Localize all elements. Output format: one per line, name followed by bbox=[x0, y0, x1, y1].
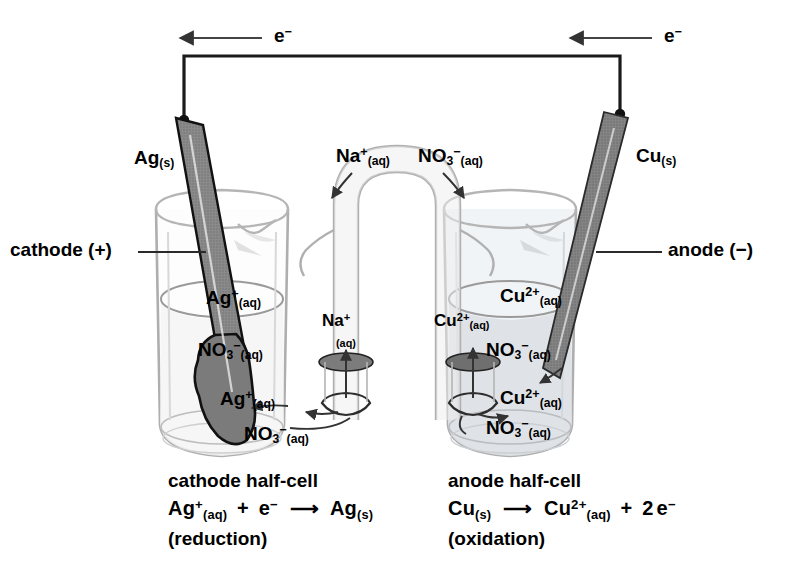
anode-half-reaction: Cu(s) ⟶ Cu2+(aq) + 2e− bbox=[448, 496, 676, 522]
electron-label-right: e− bbox=[664, 26, 682, 46]
left-species-no3-upper: NO3−(aq) bbox=[198, 340, 263, 362]
anode-half-cell-caption: anode half-cell Cu(s) ⟶ Cu2+(aq) + 2e− (… bbox=[448, 470, 676, 550]
left-species-no3-lower: NO3−(aq) bbox=[244, 424, 309, 446]
salt-bridge-no3-label: NO3−(aq) bbox=[418, 146, 483, 168]
cathode-half-reaction: Ag+(aq) + e− ⟶ Ag(s) bbox=[168, 496, 373, 522]
silver-electrode-label: Ag(s) bbox=[134, 148, 174, 170]
salt-bridge-na-label: Na+(aq) bbox=[336, 146, 390, 168]
anode-side-label: anode (−) bbox=[668, 240, 753, 260]
cathode-side-label: cathode (+) bbox=[10, 240, 112, 260]
cathode-caption-heading: cathode half-cell bbox=[168, 470, 373, 492]
cell-diagram-canvas: e− e− Ag(s) Cu(s) cathode (+) anode (−) … bbox=[0, 0, 788, 572]
copper-electrode-label: Cu(s) bbox=[636, 146, 676, 168]
external-circuit-wire bbox=[179, 56, 625, 125]
left-species-ag-plus-upper: Ag+(aq) bbox=[206, 288, 261, 310]
cathode-caption-note: (reduction) bbox=[168, 528, 373, 550]
left-species-na-plus: Na+(aq) bbox=[322, 312, 356, 350]
right-species-cu2-lower: Cu2+(aq) bbox=[500, 388, 562, 410]
electron-label-left: e− bbox=[274, 26, 292, 46]
cathode-half-cell-caption: cathode half-cell Ag+(aq) + e− ⟶ Ag(s) (… bbox=[168, 470, 373, 550]
right-species-cu2-left: Cu2+(aq) bbox=[434, 312, 489, 332]
right-species-no3-upper: NO3−(aq) bbox=[486, 340, 551, 362]
right-species-no3-lower: NO3−(aq) bbox=[486, 418, 551, 440]
anode-caption-heading: anode half-cell bbox=[448, 470, 676, 492]
left-species-ag-plus-lower: Ag+(aq) bbox=[220, 389, 275, 411]
anode-caption-note: (oxidation) bbox=[448, 528, 676, 550]
right-species-cu2-upper: Cu2+(aq) bbox=[500, 286, 562, 308]
